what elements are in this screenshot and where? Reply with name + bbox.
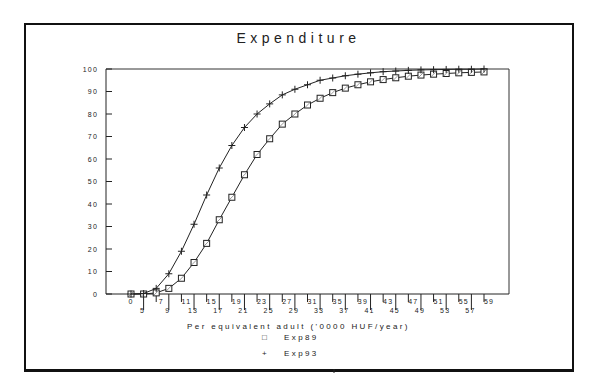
x-tick-label: 43 <box>383 298 393 305</box>
x-tick-label: 45 <box>390 307 400 314</box>
x-tick-label: 29 <box>289 307 299 314</box>
y-tick-label: 100 <box>83 66 98 73</box>
x-tick-label: 25 <box>264 307 274 314</box>
legend-item-exp89: □Exp89 <box>262 333 319 342</box>
x-tick-label: 39 <box>358 298 368 305</box>
x-tick-label: 5 <box>140 307 145 314</box>
x-tick-label: 11 <box>182 298 192 305</box>
x-tick-label: 35 <box>333 298 343 305</box>
x-tick-label: 51 <box>433 298 443 305</box>
y-tick-label: 20 <box>88 246 98 253</box>
y-tick-label: 80 <box>88 111 98 118</box>
x-tick-label: 13 <box>188 307 198 314</box>
x-tick-label: 23 <box>257 298 267 305</box>
legend-item-exp93: +Exp93 <box>262 349 319 358</box>
y-tick-label: 70 <box>88 133 98 140</box>
x-tick-label: 57 <box>465 307 475 314</box>
x-axis-label: Per equivalent adult ('0000 HUF/year) <box>0 322 597 331</box>
x-tick-label: 47 <box>408 298 418 305</box>
y-tick-label: 90 <box>88 88 98 95</box>
x-tick-label: 9 <box>165 307 170 314</box>
x-tick-label: 37 <box>339 307 349 314</box>
y-tick-label: 60 <box>88 156 98 163</box>
y-tick-label: 40 <box>88 201 98 208</box>
x-tick-label: 41 <box>364 307 374 314</box>
y-tick-label: 50 <box>88 178 98 185</box>
x-tick-label: 59 <box>484 298 494 305</box>
x-tick-label: 49 <box>415 307 425 314</box>
plus-marker-icon: + <box>262 349 284 358</box>
x-tick-label: 53 <box>440 307 450 314</box>
x-tick-label: 15 <box>207 298 217 305</box>
x-tick-label: 33 <box>314 307 324 314</box>
x-tick-label: 27 <box>282 298 292 305</box>
y-tick-label: 30 <box>88 223 98 230</box>
x-tick-label: 19 <box>232 298 242 305</box>
y-tick-label: 10 <box>88 268 98 275</box>
square-marker-icon: □ <box>262 333 284 342</box>
x-tick-label: 55 <box>459 298 469 305</box>
y-tick-label: 0 <box>93 291 98 298</box>
legend-label: Exp93 <box>284 349 319 358</box>
x-tick-label: 7 <box>159 298 164 305</box>
legend-label: Exp89 <box>284 333 319 342</box>
x-tick-label: 31 <box>307 298 317 305</box>
x-tick-label: 0 <box>128 298 133 305</box>
x-tick-label: 17 <box>213 307 223 314</box>
x-tick-label: 21 <box>238 307 248 314</box>
